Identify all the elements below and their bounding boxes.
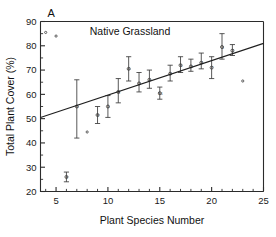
data-point: 5 xyxy=(105,96,110,118)
x-tick-label: 10 xyxy=(103,195,114,206)
data-point: 3 xyxy=(219,34,224,60)
marker xyxy=(86,131,88,133)
y-tick-label: 50 xyxy=(26,113,37,124)
data-point: 5 xyxy=(147,70,152,88)
y-tick-label: 70 xyxy=(26,64,37,75)
sample-size-label: 16 xyxy=(158,91,163,96)
marker xyxy=(55,35,57,37)
y-tick-label: 90 xyxy=(26,16,37,27)
data-point: 6 xyxy=(168,65,173,81)
marker xyxy=(45,31,47,33)
data-point xyxy=(55,35,57,37)
regression-line xyxy=(41,43,264,117)
data-point: 4 xyxy=(199,53,204,69)
y-tick-label: 20 xyxy=(26,186,37,197)
sample-size-label: 2 xyxy=(97,113,100,118)
data-point: 6 xyxy=(126,57,131,81)
data-point: 2 xyxy=(64,172,69,182)
x-axis-title: Plant Species Number xyxy=(100,214,205,226)
data-point xyxy=(242,80,244,82)
data-point: 6 xyxy=(136,73,141,92)
sample-size-label: 2 xyxy=(66,175,69,180)
x-tick-label: 20 xyxy=(206,195,217,206)
fit-line xyxy=(41,43,264,117)
x-tick-label: 25 xyxy=(258,195,269,206)
y-tick-label: 60 xyxy=(26,89,37,100)
data-point xyxy=(45,31,47,33)
data-point: 5 xyxy=(74,80,79,138)
y-tick-label: 30 xyxy=(26,162,37,173)
data-point: 2 xyxy=(95,107,100,124)
scatter-plot: 2030405060708090510152025 25258665166534… xyxy=(0,0,276,237)
marker xyxy=(242,80,244,82)
x-tick-label: 5 xyxy=(53,195,58,206)
sample-size-label: 5 xyxy=(180,63,183,68)
y-tick-label: 40 xyxy=(26,137,37,148)
data-point: 16 xyxy=(157,87,163,99)
sample-size-label: 3 xyxy=(221,45,224,50)
sample-size-label: 5 xyxy=(107,104,110,109)
panel-label: A xyxy=(48,7,56,19)
figure-container: 2030405060708090510152025 25258665166534… xyxy=(0,0,276,237)
y-tick-label: 80 xyxy=(26,40,37,51)
sample-size-label: 6 xyxy=(128,66,131,71)
y-axis-title: Total Plant Cover (%) xyxy=(4,57,16,156)
data-point xyxy=(86,131,88,133)
data-point: 3 xyxy=(188,59,193,71)
sample-size-label: 7 xyxy=(211,65,214,70)
x-tick-label: 15 xyxy=(154,195,165,206)
plot-title: Native Grassland xyxy=(90,25,171,37)
